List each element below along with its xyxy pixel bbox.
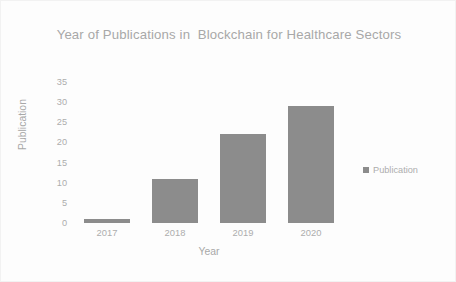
chart-figure: Year of Publications in Blockchain for H… xyxy=(0,0,456,282)
x-tick-label-2020: 2020 xyxy=(277,227,345,241)
legend-label-publication: Publication xyxy=(373,165,418,175)
plot-area xyxy=(73,82,345,223)
y-tick-label: 0 xyxy=(62,218,67,228)
bar-slot xyxy=(277,82,345,223)
y-tick-label: 20 xyxy=(57,137,67,147)
bar-2019[interactable] xyxy=(220,134,266,223)
x-axis-title: Year xyxy=(73,246,345,257)
bars-layer xyxy=(73,82,345,223)
x-tick-label-2018: 2018 xyxy=(141,227,209,241)
bar-slot xyxy=(141,82,209,223)
bar-2020[interactable] xyxy=(288,106,334,223)
y-tick-label: 35 xyxy=(57,77,67,87)
y-tick-label: 30 xyxy=(57,97,67,107)
y-tick-label: 5 xyxy=(62,198,67,208)
x-tick-label-2017: 2017 xyxy=(73,227,141,241)
y-axis-tick-labels: 35 30 25 20 15 10 5 0 xyxy=(39,82,67,223)
bar-slot xyxy=(209,82,277,223)
bar-slot xyxy=(73,82,141,223)
y-axis-title: Publication xyxy=(17,80,28,170)
y-tick-label: 10 xyxy=(57,178,67,188)
y-tick-label: 25 xyxy=(57,117,67,127)
bar-2018[interactable] xyxy=(152,179,198,223)
legend: Publication xyxy=(363,165,418,175)
y-tick-label: 15 xyxy=(57,158,67,168)
legend-swatch-icon xyxy=(363,167,369,173)
x-tick-label-2019: 2019 xyxy=(209,227,277,241)
x-axis-tick-labels: 2017 2018 2019 2020 xyxy=(73,227,345,241)
bar-2017[interactable] xyxy=(84,219,130,223)
chart-title: Year of Publications in Blockchain for H… xyxy=(41,25,417,44)
